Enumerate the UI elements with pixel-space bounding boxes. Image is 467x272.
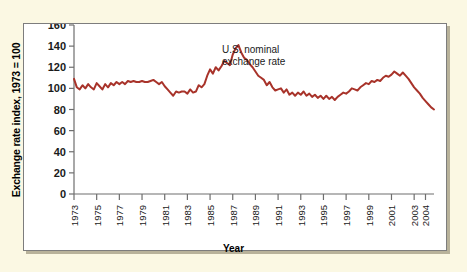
y-axis-tick-label: 40 xyxy=(54,146,66,158)
x-axis-tick-label: 1985 xyxy=(205,205,216,226)
y-axis-tick-label: 100 xyxy=(48,82,66,94)
y-axis-tick-label: 120 xyxy=(48,61,66,73)
series-annotation-line2: exchange rate xyxy=(222,56,285,68)
y-axis-label: Exchange rate index, 1973 = 100 xyxy=(10,20,22,220)
y-axis-tick-label: 20 xyxy=(54,167,66,179)
x-axis-tick-label: 1989 xyxy=(250,205,261,226)
x-axis-tick-label: 1979 xyxy=(137,205,148,226)
x-axis-tick-label: 1993 xyxy=(296,205,307,226)
x-axis-tick-label: 1973 xyxy=(69,205,80,226)
y-axis-tick-label: 160 xyxy=(48,24,66,31)
x-axis-tick-label: 1977 xyxy=(114,205,125,226)
figure-container: 0204060801001201401601973197519771979198… xyxy=(0,0,467,272)
x-axis-tick-label: 2001 xyxy=(386,205,397,226)
x-axis-tick-label: 1983 xyxy=(182,205,193,226)
x-axis-tick-label: 1999 xyxy=(364,205,375,226)
x-axis-tick-label: 1991 xyxy=(273,205,284,226)
x-axis-tick-label: 1975 xyxy=(92,205,103,226)
x-axis-tick-label: 2004 xyxy=(420,205,431,226)
x-axis-tick-label: 1995 xyxy=(318,205,329,226)
y-axis-tick-label: 80 xyxy=(54,104,66,116)
x-axis-tick-label: 1987 xyxy=(228,205,239,226)
x-axis-tick-label: 1997 xyxy=(341,205,352,226)
y-axis-label-wrapper: Exchange rate index, 1973 = 100 xyxy=(1,0,27,272)
x-axis-label: Year xyxy=(0,243,467,254)
y-axis-tick-label: 140 xyxy=(48,40,66,52)
series-annotation: U.S. nominal exchange rate xyxy=(222,44,285,68)
y-axis-tick-label: 0 xyxy=(60,188,66,200)
series-annotation-line1: U.S. nominal xyxy=(222,44,285,56)
x-axis-tick-label: 2003 xyxy=(409,205,420,226)
y-axis-tick-label: 60 xyxy=(54,125,66,137)
x-axis-tick-label: 1981 xyxy=(160,205,171,226)
